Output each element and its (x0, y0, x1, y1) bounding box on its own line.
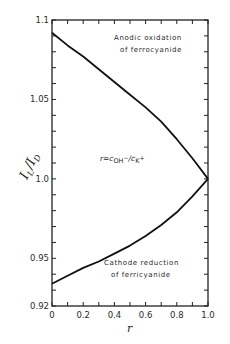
y-tick-label: 1.0 (35, 174, 49, 184)
x-axis-label: r (127, 322, 133, 335)
cathodic-curve (52, 179, 208, 284)
annotation-cathode-line2: of ferricyanide (111, 271, 171, 279)
formula-plus-superscript: + (139, 154, 144, 161)
x-tick-label: 1.0 (201, 310, 215, 320)
x-tick-label: 0.4 (108, 310, 122, 320)
y-tick-label: 1.05 (30, 94, 49, 104)
x-tick-label: 0.2 (76, 310, 90, 320)
annotation-anodic-line2: of ferrocyanide (120, 46, 182, 54)
y-tick-label: 1.1 (35, 15, 49, 25)
y-tick-label: 0.92 (30, 301, 49, 311)
x-tick-label: 0.8 (170, 310, 184, 320)
y-tick-label: 0.95 (30, 253, 49, 263)
x-axis-tick-labels: 00.20.40.60.81.0 (49, 310, 214, 320)
formula-r: r=c (100, 154, 114, 163)
annotation-formula: r=cOH−/cK+ (100, 154, 145, 165)
x-tick-label: 0.6 (139, 310, 153, 320)
chart-canvas: 00.20.40.60.81.0 0.920.951.01.051.1 Anod… (0, 0, 230, 344)
annotation-anodic-line1: Anodic oxidation (114, 34, 182, 42)
annotation-cathode-line1: Cathode reduction (104, 259, 179, 267)
x-tick-label: 0 (49, 310, 54, 320)
formula-oh-subscript: OH (114, 157, 124, 165)
